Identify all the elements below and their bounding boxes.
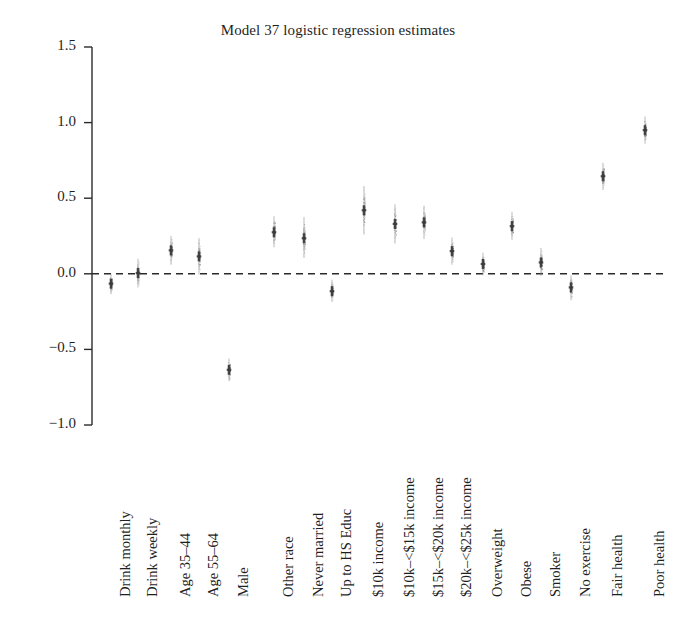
estimate-point-cloud xyxy=(136,259,141,288)
estimate-point-cloud xyxy=(197,238,202,274)
y-axis-tick-label: −0.5 xyxy=(30,339,76,356)
estimate-point-cloud xyxy=(569,275,574,300)
estimate-point-cloud xyxy=(510,212,515,240)
y-axis-tick-label: 0.0 xyxy=(30,264,76,281)
estimate-point-cloud xyxy=(330,280,335,302)
x-axis-category-label: Smoker xyxy=(547,552,564,597)
estimate-point-cloud xyxy=(422,206,427,239)
estimate-point-cloud xyxy=(643,117,648,144)
x-axis-category-label: $20k–<$25k income xyxy=(458,477,475,597)
estimate-point-cloud xyxy=(393,204,398,243)
x-axis-category-label: $10k–<$15k income xyxy=(401,477,418,597)
x-axis-category-label: Male xyxy=(235,567,252,597)
x-axis-category-label: $15k–<$20k income xyxy=(430,477,447,597)
y-axis-spine xyxy=(84,47,92,425)
y-axis-tick-label: −1.0 xyxy=(30,415,76,432)
x-axis-category-label: No exercise xyxy=(577,528,594,597)
estimate-point-cloud xyxy=(227,358,232,381)
data-point-group xyxy=(109,117,648,382)
estimate-point-cloud xyxy=(169,236,174,265)
x-axis-category-label: Obese xyxy=(518,561,535,597)
estimate-point-cloud xyxy=(601,163,606,190)
x-axis-category-label: Up to HS Educ xyxy=(338,509,355,597)
estimate-point-cloud xyxy=(362,186,367,234)
x-axis-category-label: Overweight xyxy=(489,529,506,597)
x-axis-category-label: Age 55–64 xyxy=(205,533,222,597)
x-axis-category-label: Other race xyxy=(280,536,297,597)
estimate-point-cloud xyxy=(109,274,114,294)
y-axis-tick-label: 1.5 xyxy=(30,37,76,54)
x-axis-category-label: Never married xyxy=(310,513,327,597)
estimate-point-cloud xyxy=(450,238,455,265)
estimate-point-cloud xyxy=(539,248,544,276)
figure-canvas: Model 37 logistic regression estimates 1… xyxy=(0,0,676,637)
x-axis-category-label: Fair health xyxy=(609,535,626,597)
estimate-point-cloud xyxy=(302,217,307,258)
y-axis-tick-label: 1.0 xyxy=(30,113,76,130)
x-axis-category-label: Drink weekly xyxy=(144,518,161,597)
x-axis-category-label: Poor health xyxy=(651,531,668,597)
x-axis-category-label: $10k income xyxy=(370,522,387,597)
x-axis-category-label: Age 35–44 xyxy=(177,533,194,597)
estimate-point-cloud xyxy=(481,253,486,276)
y-axis-tick-label: 0.5 xyxy=(30,188,76,205)
estimate-point-cloud xyxy=(272,216,277,247)
x-axis-category-label: Drink monthly xyxy=(117,511,134,597)
